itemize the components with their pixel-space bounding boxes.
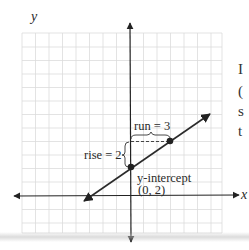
grid [22, 33, 222, 233]
slope-intercept-diagram: y x run = 3 rise = 2 y-intercept (0, 2) … [0, 0, 249, 250]
edge-text-fragment: s [238, 104, 244, 119]
page-shadow [0, 232, 249, 242]
run-label: run = 3 [134, 119, 170, 133]
y-axis-label: y [29, 9, 38, 24]
edge-text-fragment: t [238, 124, 242, 139]
y-intercept-coords: (0, 2) [138, 183, 165, 197]
edge-text-fragment: I [238, 62, 243, 77]
rise-brace [122, 142, 129, 167]
y-intercept-point [128, 164, 135, 171]
x-axis [14, 195, 239, 196]
run-brace [131, 132, 170, 139]
edge-text-fragment: ( [238, 84, 243, 99]
run-end-point [167, 138, 174, 145]
x-axis-label: x [240, 187, 248, 202]
rise-label: rise = 2 [84, 148, 122, 162]
graph-svg: y x run = 3 rise = 2 y-intercept (0, 2) [0, 0, 249, 250]
